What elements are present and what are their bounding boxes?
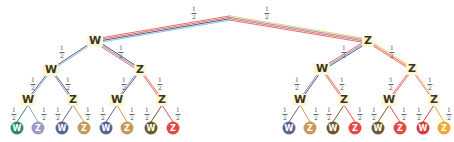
probability-denominator: 2 — [283, 115, 287, 121]
probability-label: 12 — [358, 107, 363, 121]
probability-denominator: 2 — [390, 53, 394, 59]
probability-denominator: 2 — [60, 53, 64, 59]
leaf-outcome-z: Z — [32, 122, 45, 135]
probability-label: 12 — [122, 77, 127, 91]
probability-numerator: 1 — [66, 77, 70, 83]
leaf-edge — [289, 105, 300, 122]
tree-node-w: W — [381, 94, 397, 106]
probability-numerator: 1 — [192, 6, 196, 12]
leaf-outcome-z: Z — [394, 122, 407, 135]
probability-denominator: 2 — [402, 115, 406, 121]
probability-denominator: 2 — [176, 115, 180, 121]
probability-denominator: 2 — [314, 115, 318, 121]
probability-label: 12 — [417, 107, 422, 121]
probability-denominator: 2 — [340, 85, 344, 91]
tree-node-w: W — [20, 94, 36, 106]
tree-node-z: Z — [338, 94, 350, 106]
leaf-edge — [17, 105, 28, 122]
probability-denominator: 2 — [327, 115, 331, 121]
leaf-edge — [28, 105, 38, 122]
leaf-edge — [106, 105, 117, 122]
leaf-edge — [117, 105, 127, 122]
tree-node-z: Z — [156, 94, 168, 106]
probability-numerator: 1 — [42, 107, 46, 113]
probability-label: 12 — [283, 107, 288, 121]
probability-numerator: 1 — [417, 107, 421, 113]
leaf-outcome-z: Z — [349, 122, 362, 135]
probability-label: 12 — [12, 107, 17, 121]
probability-numerator: 1 — [358, 107, 362, 113]
probability-numerator: 1 — [158, 77, 162, 83]
probability-denominator: 2 — [428, 85, 432, 91]
tree-node-w: W — [109, 94, 125, 106]
probability-denominator: 2 — [56, 115, 60, 121]
probability-denominator: 2 — [12, 115, 16, 121]
probability-denominator: 2 — [42, 115, 46, 121]
leaf-outcome-z: Z — [121, 122, 134, 135]
probability-tree: 1212121212121212121212121212121212121212… — [0, 0, 454, 142]
probability-numerator: 1 — [402, 107, 406, 113]
leaf-outcome-z: Z — [78, 122, 91, 135]
probability-denominator: 2 — [122, 85, 126, 91]
probability-numerator: 1 — [340, 77, 344, 83]
probability-denominator: 2 — [417, 115, 421, 121]
edge-stroke — [95, 19, 230, 42]
leaf-edge — [73, 105, 84, 122]
leaf-edge — [162, 105, 173, 122]
edge-stroke — [230, 19, 368, 42]
tree-node-z: Z — [362, 35, 374, 47]
leaf-edge — [62, 105, 73, 122]
tree-node-w: W — [87, 35, 103, 47]
probability-denominator: 2 — [145, 115, 149, 121]
probability-label: 12 — [101, 107, 106, 121]
probability-denominator: 2 — [447, 115, 451, 121]
probability-label: 12 — [192, 6, 197, 20]
edge-stroke — [230, 17, 368, 40]
probability-denominator: 2 — [119, 53, 123, 59]
probability-numerator: 1 — [56, 107, 60, 113]
probability-numerator: 1 — [295, 77, 299, 83]
probability-numerator: 1 — [122, 77, 126, 83]
probability-numerator: 1 — [176, 107, 180, 113]
leaf-outcome-w: W — [11, 122, 24, 135]
tree-node-z: Z — [134, 64, 146, 76]
probability-denominator: 2 — [31, 85, 35, 91]
edge-stroke — [95, 16, 230, 39]
probability-label: 12 — [340, 77, 345, 91]
tree-node-z: Z — [406, 63, 418, 75]
probability-label: 12 — [60, 45, 65, 59]
leaf-edge — [389, 105, 400, 122]
probability-numerator: 1 — [447, 107, 451, 113]
probability-denominator: 2 — [192, 14, 196, 20]
probability-numerator: 1 — [283, 107, 287, 113]
probability-label: 12 — [42, 107, 47, 121]
probability-denominator: 2 — [358, 115, 362, 121]
tree-node-w: W — [43, 64, 59, 76]
probability-numerator: 1 — [372, 107, 376, 113]
probability-numerator: 1 — [119, 45, 123, 51]
probability-denominator: 2 — [130, 115, 134, 121]
leaf-outcome-w: W — [100, 122, 113, 135]
leaf-outcome-z: Z — [304, 122, 317, 135]
probability-label: 12 — [327, 107, 332, 121]
probability-numerator: 1 — [327, 107, 331, 113]
probability-label: 12 — [295, 77, 300, 91]
probability-label: 12 — [372, 107, 377, 121]
edge-stroke — [95, 20, 230, 43]
probability-label: 12 — [66, 77, 71, 91]
probability-denominator: 2 — [372, 115, 376, 121]
tree-edges — [0, 0, 454, 142]
edge-stroke — [95, 17, 230, 40]
probability-label: 12 — [158, 77, 163, 91]
probability-numerator: 1 — [428, 77, 432, 83]
leaf-outcome-z: Z — [167, 122, 180, 135]
probability-numerator: 1 — [12, 107, 16, 113]
leaf-edge — [344, 105, 355, 122]
probability-label: 12 — [130, 107, 135, 121]
probability-label: 12 — [428, 77, 433, 91]
probability-label: 12 — [447, 107, 452, 121]
probability-label: 12 — [86, 107, 91, 121]
leaf-outcome-w: W — [372, 122, 385, 135]
probability-denominator: 2 — [342, 53, 346, 59]
leaf-edge — [300, 105, 310, 122]
